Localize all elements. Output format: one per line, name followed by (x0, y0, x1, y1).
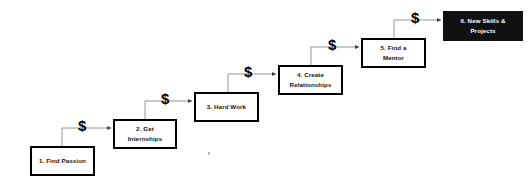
step-box-6[interactable]: 6. New Skills & Projects (443, 11, 523, 41)
step-box-6-label: 6. New Skills & Projects (447, 16, 519, 35)
step-box-3-label: 3. Hard Work (198, 102, 255, 112)
scan-artifact (208, 152, 210, 155)
step-box-6-line-2: Projects (470, 27, 495, 34)
step-box-4[interactable]: 4. Create Relationships (278, 65, 343, 95)
step-box-4-line-2: Relationships (290, 81, 332, 88)
step-box-5-line-2: Mentor (383, 54, 404, 61)
step-box-5[interactable]: 5. Find a Mentor (361, 38, 426, 68)
step-box-6-line-1: 6. New Skills & (460, 17, 505, 24)
step-box-2-line-1: 2. Get (136, 125, 154, 132)
step-box-4-label: 4. Create Relationships (282, 70, 339, 89)
step-box-5-line-1: 5. Find a (381, 44, 407, 51)
money-icon-4: $ (328, 37, 336, 52)
step-box-1[interactable]: 1. Find Passion (30, 146, 95, 176)
connector-1-2-path (62, 128, 111, 146)
money-icon-5: $ (411, 10, 419, 25)
step-box-4-line-1: 4. Create (297, 71, 324, 78)
step-box-3[interactable]: 3. Hard Work (194, 92, 259, 122)
step-box-5-label: 5. Find a Mentor (365, 43, 422, 62)
step-box-2-label: 2. Get Internships (117, 124, 173, 143)
step-box-2[interactable]: 2. Get Internships (113, 119, 177, 149)
step-box-2-line-2: Internships (128, 135, 162, 142)
money-icon-2: $ (161, 91, 169, 106)
step-box-1-label: 1. Find Passion (34, 156, 91, 166)
money-icon-3: $ (244, 64, 252, 79)
diagram-canvas: $ $ $ $ $ 1. Find Passion 2. Get Interns… (0, 0, 532, 181)
money-icon-1: $ (78, 118, 86, 133)
